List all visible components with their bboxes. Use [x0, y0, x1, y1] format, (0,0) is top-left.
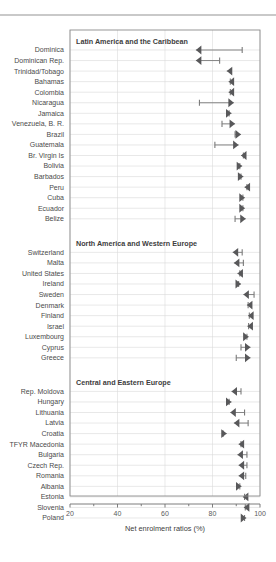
value-arrow-marker — [245, 343, 251, 352]
category-label: Malta — [47, 259, 64, 266]
category-label: Ecuador — [38, 205, 65, 212]
panel-titles-layer: Latin America and the CaribbeanNorth Ame… — [76, 37, 197, 387]
data-row: Trinidad/Tobago — [14, 67, 260, 76]
category-label: Lithuania — [36, 409, 65, 416]
data-row: Estonia — [41, 493, 260, 502]
data-row: Latvia — [45, 419, 260, 428]
data-row: Luxembourg — [25, 332, 260, 341]
panel-title: Central and Eastern Europe — [76, 378, 171, 387]
data-row: Jamaica — [38, 109, 260, 118]
x-axis-tick-label: 80 — [209, 510, 217, 517]
category-label: Ireland — [43, 280, 65, 287]
category-label: Switzerland — [28, 249, 64, 256]
value-arrow-marker — [196, 46, 202, 55]
category-label: Cyprus — [42, 344, 65, 352]
x-axis-tick-label: 60 — [161, 510, 169, 517]
data-row: Czech Rep. — [27, 461, 260, 470]
value-arrow-marker — [239, 461, 245, 470]
value-arrow-marker — [229, 77, 235, 86]
data-row: Cyprus — [42, 343, 260, 352]
category-label: Latvia — [45, 419, 64, 426]
category-label: Br. Virgin Is — [28, 152, 64, 160]
data-row: Greece — [41, 353, 260, 362]
x-axis-tick-label: 40 — [114, 510, 122, 517]
data-row: Brazil — [46, 130, 260, 139]
panel-title: North America and Western Europe — [76, 239, 197, 248]
data-row: Rep. Moldova — [21, 387, 260, 396]
category-label: Slovenia — [37, 504, 64, 511]
category-label: Sweden — [39, 291, 64, 298]
value-arrow-marker — [239, 204, 245, 213]
category-label: Greece — [41, 354, 64, 361]
data-rows-layer: DominicaDominican Rep.Trinidad/TobagoBah… — [10, 46, 260, 523]
category-label: TFYR Macedonia — [10, 441, 65, 448]
data-row: Albania — [41, 482, 260, 491]
category-label: Hungary — [38, 398, 65, 406]
data-row: Poland — [42, 514, 260, 523]
value-arrow-marker — [240, 214, 246, 223]
category-label: United States — [22, 270, 65, 277]
data-row: Peru — [49, 183, 260, 192]
category-label: Guatemala — [30, 141, 64, 148]
category-label: Nicaragua — [32, 99, 64, 107]
panel-title: Latin America and the Caribbean — [76, 37, 188, 46]
value-arrow-marker — [237, 450, 243, 459]
data-row: Malta — [47, 259, 260, 268]
category-label: Croatia — [41, 430, 64, 437]
category-label: Cuba — [47, 194, 64, 201]
value-arrow-marker — [221, 429, 227, 438]
value-arrow-marker — [233, 141, 239, 150]
value-arrow-marker — [196, 56, 202, 65]
category-label: Dominica — [35, 46, 64, 53]
category-label: Bulgaria — [38, 451, 64, 459]
data-row: Denmark — [36, 301, 260, 310]
category-label: Venezuela, B. R. — [12, 120, 64, 127]
data-row: Bahamas — [34, 77, 260, 86]
x-axis-tick-label: 20 — [66, 510, 74, 517]
value-arrow-marker — [232, 387, 238, 396]
category-label: Rep. Moldova — [21, 388, 64, 396]
category-label: Colombia — [34, 89, 64, 96]
data-row: Barbados — [34, 172, 260, 181]
data-row: Guatemala — [30, 141, 260, 150]
data-row: Hungary — [38, 398, 260, 407]
value-arrow-marker — [236, 130, 242, 139]
category-label: Belize — [45, 215, 64, 222]
value-arrow-marker — [230, 119, 236, 128]
data-row: Israel — [47, 322, 260, 331]
data-row: Nicaragua — [32, 98, 260, 107]
data-row: Sweden — [39, 290, 260, 299]
data-row: Br. Virgin Is — [28, 151, 260, 160]
data-row: Bolivia — [43, 162, 260, 171]
x-axis-layer: 20406080100Net enrolment ratios (%) — [66, 504, 266, 533]
category-label: Barbados — [34, 173, 64, 180]
data-row: Switzerland — [28, 248, 260, 257]
value-arrow-marker — [239, 471, 245, 480]
x-axis-tick-label: 100 — [254, 510, 266, 517]
data-row: Dominican Rep. — [14, 56, 260, 65]
value-arrow-marker — [241, 514, 247, 523]
value-arrow-marker — [233, 248, 239, 257]
value-arrow-marker — [227, 67, 233, 76]
category-label: Czech Rep. — [27, 462, 64, 470]
data-row: Ireland — [43, 280, 260, 289]
net-enrolment-ratio-chart: DominicaDominican Rep.Trinidad/TobagoBah… — [0, 0, 276, 562]
data-row: United States — [22, 269, 260, 278]
category-label: Poland — [42, 514, 64, 521]
data-row: Cuba — [47, 193, 260, 202]
category-label: Romania — [36, 472, 64, 479]
category-label: Dominican Rep. — [14, 57, 64, 65]
category-label: Luxembourg — [25, 333, 64, 341]
category-label: Albania — [41, 483, 64, 490]
value-arrow-marker — [243, 290, 249, 299]
value-arrow-marker — [230, 408, 236, 417]
value-arrow-marker — [234, 259, 240, 268]
value-arrow-marker — [243, 332, 249, 341]
category-label: Jamaica — [38, 110, 64, 117]
data-row: Colombia — [34, 88, 260, 97]
value-arrow-marker — [239, 193, 245, 202]
category-label: Denmark — [36, 302, 65, 309]
data-row: Bulgaria — [38, 450, 260, 459]
data-row: TFYR Macedonia — [10, 440, 260, 449]
category-label: Bahamas — [34, 78, 64, 85]
